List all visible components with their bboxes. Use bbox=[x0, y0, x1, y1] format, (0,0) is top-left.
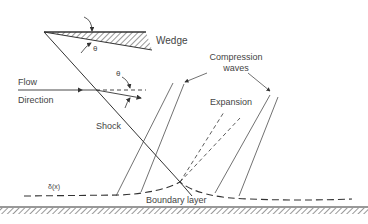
shock-line bbox=[44, 32, 180, 182]
shock-label: Shock bbox=[96, 122, 121, 131]
flow-label: Flow bbox=[18, 78, 37, 87]
shock-boundary-layer-diagram: Wedge θ θ Flow Direction Compression wav… bbox=[0, 0, 368, 224]
flow-theta-label: θ bbox=[116, 70, 120, 78]
wall bbox=[0, 207, 368, 214]
flow-angle-arrow-top bbox=[122, 77, 130, 88]
shock-reflection bbox=[180, 182, 192, 196]
boundary-layer-label: Boundary layer bbox=[146, 196, 207, 205]
wedge-angle-arrow-top bbox=[84, 17, 92, 31]
delta-label: δ(x) bbox=[48, 183, 60, 190]
wedge-theta-label: θ bbox=[93, 45, 97, 53]
waves-label: waves bbox=[199, 64, 273, 73]
direction-label: Direction bbox=[18, 96, 54, 105]
compression-pointer-right bbox=[248, 73, 270, 91]
diagram-lines bbox=[0, 0, 368, 224]
wedge-shape bbox=[44, 32, 152, 50]
expansion-fan bbox=[180, 112, 240, 182]
wedge-label: Wedge bbox=[156, 36, 188, 46]
compression-label: Compression bbox=[199, 53, 273, 62]
flow-angle-arrow-bottom bbox=[125, 98, 130, 108]
compression-pointer-left bbox=[185, 73, 207, 82]
wedge-angle-arrow-bottom bbox=[81, 43, 91, 53]
expansion-label: Expansion bbox=[210, 98, 252, 107]
compression-waves-right bbox=[215, 95, 278, 196]
compression-waves-left bbox=[116, 83, 184, 196]
